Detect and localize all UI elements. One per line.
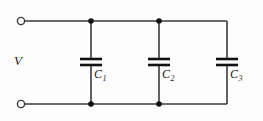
circuit-schematic-svg [0,0,263,121]
junction-dot-bottom-left [88,101,94,107]
source-terminal-bottom-icon [17,100,24,107]
capacitor-c3-label-subscript: 3 [238,74,243,83]
junction-dot-top-right [156,18,162,24]
voltage-source-label: V [14,54,22,67]
junction-dot-top-left [88,18,94,24]
capacitor-c3-label-text: C [230,67,238,81]
capacitor-c2-label-text: C [162,67,170,81]
circuit-diagram-canvas: V C1 C2 C3 [0,0,263,121]
capacitor-c2-label-subscript: 2 [170,74,175,83]
capacitor-c1-label: C1 [94,68,107,83]
junction-dot-bottom-right [156,101,162,107]
capacitor-c2-label: C2 [162,68,175,83]
capacitor-c1-label-text: C [94,67,102,81]
source-terminal-top-icon [17,17,24,24]
capacitor-c3-label: C3 [230,68,243,83]
capacitor-c1-label-subscript: 1 [102,74,107,83]
